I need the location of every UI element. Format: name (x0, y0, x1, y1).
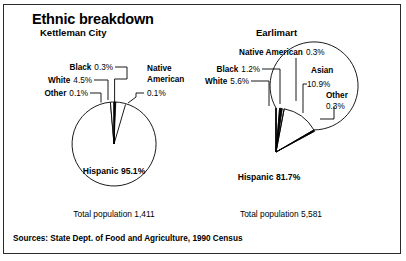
callout-other-pct: 0.3% (326, 102, 345, 111)
page-title: Ethnic breakdown (32, 11, 154, 27)
callout-white-pct: 4.5% (73, 76, 92, 85)
callout-white-name: White (48, 76, 71, 85)
callout-native-american-pct: 0.3% (306, 48, 325, 57)
callout-native-american-name: Native American (239, 48, 303, 57)
leader-line-white (251, 81, 269, 106)
callout-black: Black0.3% (69, 63, 113, 72)
slice-label-hispanic: Hispanic 81.7% (238, 172, 301, 182)
callout-other: Other0.1% (44, 89, 88, 98)
callout-native-american-pct: 0.1% (147, 89, 166, 98)
slice-label-hispanic: Hispanic 95.1% (83, 166, 146, 176)
callout-black-name: Black (216, 65, 238, 74)
figure-frame: Ethnic breakdown Kettleman City Earlimar… (3, 4, 401, 254)
callout-black-pct: 0.3% (94, 63, 113, 72)
callout-white: White4.5% (48, 76, 92, 85)
pie-chart-kettleman-city: Hispanic 95.1% Black0.3% (44, 63, 184, 219)
callout-native-american-line1: Native (147, 64, 172, 73)
total-population-earlimart: Total population 5,581 (240, 209, 322, 219)
source-note: Sources: State Dept. of Food and Agricul… (13, 234, 243, 243)
callout-other-name: Other (44, 89, 67, 98)
callout-white: White5.6% (205, 77, 249, 86)
page-subtitle: Kettleman City (40, 27, 107, 38)
figure-canvas: Ethnic breakdown Kettleman City Earlimar… (4, 5, 400, 253)
callout-black-pct: 1.2% (241, 65, 260, 74)
chart-title-earlimart: Earlimart (256, 27, 298, 38)
callout-white-pct: 5.6% (230, 77, 249, 86)
pie-chart-earlimart: Hispanic 81.7% Native American0.3% (205, 42, 358, 219)
leader-line-native-american-stem (128, 97, 136, 103)
callout-native-american: Native American0.3% (239, 48, 325, 57)
leader-line-black (115, 67, 128, 79)
callout-native-american-line2: American (147, 75, 184, 84)
total-population-kettleman: Total population 1,411 (73, 209, 155, 219)
callout-other-pct: 0.1% (69, 89, 88, 98)
callout-black-name: Black (69, 63, 91, 72)
callout-asian-name: Asian (311, 66, 333, 75)
callout-white-name: White (205, 77, 228, 86)
callout-asian-pct: 10.9% (307, 80, 330, 89)
leader-line-native-american (136, 93, 144, 97)
callout-other-name: Other (326, 91, 349, 100)
leader-line-other (90, 93, 101, 103)
callout-black: Black1.2% (216, 65, 260, 74)
ethnic-breakdown-figure: Ethnic breakdown Kettleman City Earlimar… (4, 5, 399, 252)
